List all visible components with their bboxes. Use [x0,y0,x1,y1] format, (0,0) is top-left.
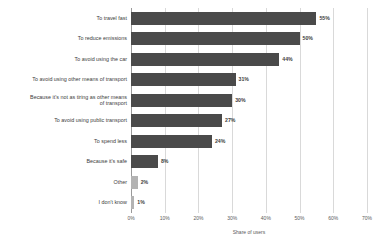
bar-value-label: 8% [161,159,169,164]
x-axis-title: Share of users [131,229,367,235]
bar [131,135,212,148]
bar-row: 2% [131,176,367,189]
category-label: To avoid using other means of transport [0,76,127,83]
bar-chart: To travel fastTo reduce emissionsTo avoi… [0,0,374,247]
bar-value-label: 1% [137,200,145,205]
bar-value-label: 31% [239,77,249,82]
category-label: To reduce emissions [0,35,127,42]
category-label: To travel fast [0,15,127,22]
bar [131,12,316,25]
bar-row: 50% [131,32,367,45]
bar-row: 1% [131,196,367,209]
bar-row: 31% [131,73,367,86]
category-label: To avoid using public transport [0,117,127,124]
bar-row: 44% [131,53,367,66]
category-label: To spend less [0,138,127,145]
category-label: I don't know [0,199,127,206]
bar [131,176,138,189]
bar [131,73,236,86]
bar-row: 8% [131,155,367,168]
x-tick-label: 40% [261,215,271,221]
plot-area: 55%50%44%31%30%27%24%8%2%1% [131,8,367,213]
bar-value-label: 2% [141,180,149,185]
category-label: Because it's not as tiring as other mean… [0,94,127,107]
category-axis-labels: To travel fastTo reduce emissionsTo avoi… [0,8,127,213]
bar-row: 24% [131,135,367,148]
bar [131,155,158,168]
x-axis-tick-labels: 0%10%20%30%40%50%60%70% [131,215,367,225]
bar-value-label: 50% [303,36,313,41]
bar [131,196,134,209]
x-tick-label: 70% [362,215,372,221]
bar-value-label: 55% [319,16,329,21]
bar-row: 55% [131,12,367,25]
bar [131,94,232,107]
bar-row: 30% [131,94,367,107]
bar-value-label: 27% [225,118,235,123]
bar [131,53,279,66]
x-tick-label: 60% [328,215,338,221]
category-label: Other [0,179,127,186]
bar-value-label: 44% [282,57,292,62]
gridline [367,8,368,213]
x-tick-label: 50% [295,215,305,221]
category-label: To avoid using the car [0,56,127,63]
category-label: Because it's safe [0,158,127,165]
bar-rows: 55%50%44%31%30%27%24%8%2%1% [131,8,367,213]
bar [131,114,222,127]
bar-value-label: 30% [235,98,245,103]
x-tick-label: 0% [127,215,134,221]
bar [131,32,300,45]
bar-row: 27% [131,114,367,127]
bar-value-label: 24% [215,139,225,144]
x-tick-label: 20% [193,215,203,221]
x-tick-label: 30% [227,215,237,221]
x-tick-label: 10% [160,215,170,221]
